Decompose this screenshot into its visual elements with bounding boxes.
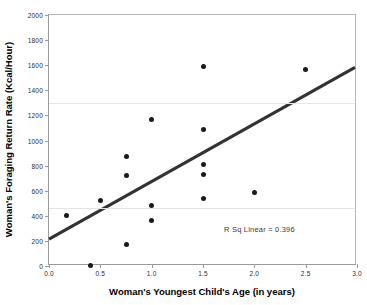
y-axis-tick xyxy=(45,65,49,66)
y-axis-title-text: Woman's Foraging Return Rate (Kcal/Hour) xyxy=(4,42,15,237)
y-axis-tick-label: 0 xyxy=(39,263,43,270)
data-point xyxy=(88,263,93,268)
x-axis-tick-label: 0.0 xyxy=(44,270,54,277)
data-point xyxy=(124,154,129,159)
y-axis-tick xyxy=(45,15,49,16)
y-axis-tick-label: 200 xyxy=(32,237,43,244)
data-point xyxy=(201,172,206,177)
y-axis-tick-label: 1200 xyxy=(28,112,43,119)
x-axis-tick xyxy=(357,264,358,268)
data-point xyxy=(201,196,206,201)
x-axis-tick-label: 2.5 xyxy=(301,270,311,277)
data-point xyxy=(201,64,206,69)
x-axis-tick xyxy=(49,264,50,268)
y-axis-tick-label: 1600 xyxy=(28,62,43,69)
y-axis-tick-label: 2000 xyxy=(28,12,43,19)
x-axis-tick xyxy=(306,264,307,268)
data-point xyxy=(124,173,129,178)
plot-area: 02004006008001000120014001600180020000.0… xyxy=(48,14,356,265)
x-axis-tick-label: 1.5 xyxy=(198,270,208,277)
y-axis-tick xyxy=(45,141,49,142)
y-axis-tick-label: 1000 xyxy=(28,137,43,144)
x-axis-title: Woman's Youngest Child's Age (in years) xyxy=(48,286,356,297)
y-axis-tick xyxy=(45,40,49,41)
x-axis-tick xyxy=(203,264,204,268)
data-point xyxy=(201,127,206,132)
data-point xyxy=(149,117,154,122)
y-axis-tick-label: 400 xyxy=(32,212,43,219)
x-axis-tick-label: 3.0 xyxy=(352,270,362,277)
y-axis-tick-label: 1400 xyxy=(28,87,43,94)
data-point xyxy=(98,198,103,203)
regression-line xyxy=(49,15,355,264)
data-point xyxy=(252,190,257,195)
y-axis-tick xyxy=(45,241,49,242)
y-axis-tick xyxy=(45,216,49,217)
y-axis-tick-label: 1800 xyxy=(28,37,43,44)
y-axis-tick-label: 600 xyxy=(32,187,43,194)
data-point xyxy=(124,242,129,247)
y-axis-tick xyxy=(45,90,49,91)
x-axis-tick-label: 1.0 xyxy=(147,270,157,277)
y-axis-tick xyxy=(45,166,49,167)
scatter-plot-figure: Woman's Foraging Return Rate (Kcal/Hour)… xyxy=(0,0,367,305)
x-axis-tick-label: 0.5 xyxy=(96,270,106,277)
x-axis-tick xyxy=(100,264,101,268)
x-axis-tick xyxy=(152,264,153,268)
x-axis-tick-label: 2.0 xyxy=(250,270,260,277)
plot-inner xyxy=(49,15,355,264)
y-axis-tick-label: 800 xyxy=(32,162,43,169)
x-axis-tick xyxy=(254,264,255,268)
y-axis-title: Woman's Foraging Return Rate (Kcal/Hour) xyxy=(2,14,16,265)
y-axis-tick xyxy=(45,191,49,192)
y-axis-tick xyxy=(45,115,49,116)
r-squared-annotation: R Sq Linear = 0.396 xyxy=(224,224,295,233)
